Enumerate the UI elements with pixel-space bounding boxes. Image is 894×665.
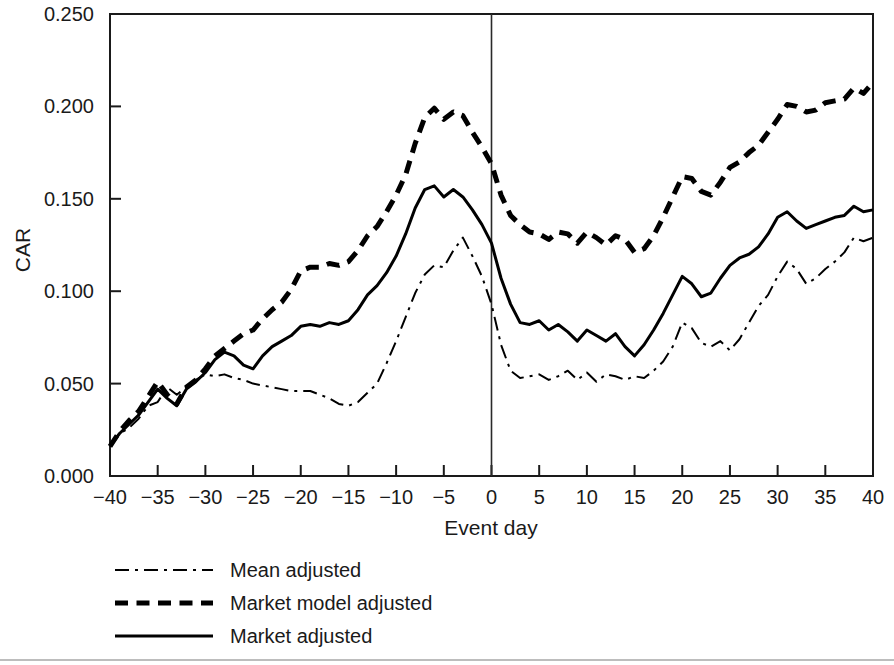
x-tick-label: 10: [576, 486, 598, 508]
car-event-study-chart: 0.0000.0500.1000.1500.2000.250 −40−35−30…: [0, 0, 894, 665]
x-tick-label: 0: [486, 486, 497, 508]
chart-legend: Mean adjustedMarket model adjustedMarket…: [115, 559, 432, 647]
x-tick-label: −40: [93, 486, 127, 508]
y-axis-tick-labels: 0.0000.0500.1000.1500.2000.250: [44, 3, 94, 487]
x-tick-label: −20: [284, 486, 318, 508]
x-tick-label: 5: [534, 486, 545, 508]
x-tick-label: −10: [379, 486, 413, 508]
y-tick-label: 0.050: [44, 373, 94, 395]
y-tick-label: 0.200: [44, 95, 94, 117]
x-tick-label: −35: [141, 486, 175, 508]
y-tick-label: 0.100: [44, 280, 94, 302]
y-axis-ticks: [110, 14, 121, 476]
x-tick-label: −25: [236, 486, 270, 508]
legend-label-mean-adjusted: Mean adjusted: [230, 559, 361, 581]
y-tick-label: 0.150: [44, 188, 94, 210]
x-tick-label: −5: [432, 486, 455, 508]
x-tick-label: 25: [719, 486, 741, 508]
figure-container: 0.0000.0500.1000.1500.2000.250 −40−35−30…: [0, 0, 894, 665]
y-tick-label: 0.250: [44, 3, 94, 25]
x-axis-title: Event day: [444, 516, 538, 539]
legend-label-market-model-adjusted: Market model adjusted: [230, 592, 432, 614]
x-tick-label: 20: [671, 486, 693, 508]
y-tick-label: 0.000: [44, 465, 94, 487]
x-tick-label: 35: [814, 486, 836, 508]
x-tick-label: 40: [862, 486, 884, 508]
y-axis-title: CAR: [11, 228, 34, 272]
x-axis-tick-labels: −40−35−30−25−20−15−10−50510152025303540: [93, 486, 884, 508]
x-tick-label: 30: [767, 486, 789, 508]
x-tick-label: −30: [188, 486, 222, 508]
x-tick-label: −15: [331, 486, 365, 508]
legend-label-market-adjusted: Market adjusted: [230, 625, 372, 647]
x-tick-label: 15: [623, 486, 645, 508]
